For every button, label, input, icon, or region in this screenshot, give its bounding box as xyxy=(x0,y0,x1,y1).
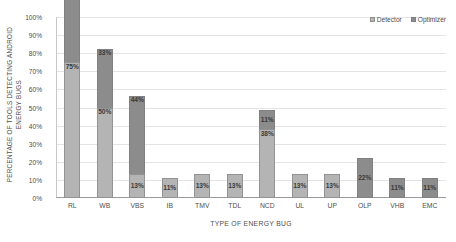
bar-segment-detector[interactable]: 50% xyxy=(97,108,113,199)
legend-swatch-icon xyxy=(370,17,375,22)
bar-value-label: 44% xyxy=(66,0,79,54)
bar-group-olp[interactable]: 22% xyxy=(357,17,373,198)
bar-segment-detector[interactable]: 38% xyxy=(259,129,275,198)
bar-value-label: 13% xyxy=(196,182,209,189)
bar-group-ib[interactable]: 11% xyxy=(162,17,178,198)
bar-stack: 11% xyxy=(389,178,405,198)
bar-group-vbs[interactable]: 44%13% xyxy=(129,17,145,198)
y-axis-tick-label: 30% xyxy=(6,140,42,147)
bar-stack: 44%13% xyxy=(129,96,145,198)
bar-value-label: 13% xyxy=(293,182,306,189)
bar-value-label: 44% xyxy=(131,96,144,166)
legend-label: Optimizer xyxy=(418,16,446,23)
legend-item-optimizer[interactable]: Optimizer xyxy=(411,16,446,23)
y-axis-tick-label: 80% xyxy=(6,50,42,57)
bar-stack: 11% xyxy=(162,178,178,198)
bar-segment-detector[interactable]: 75% xyxy=(64,62,80,198)
bar-segment-optimizer[interactable]: 22% xyxy=(357,158,373,198)
bar-segment-optimizer[interactable]: 44% xyxy=(64,0,80,63)
bar-stack: 33%50% xyxy=(97,49,113,198)
bar-stack: 13% xyxy=(194,174,210,198)
bars-layer: 44%75%33%50%44%13%11%13%13%11%38%13%13%2… xyxy=(56,17,446,198)
bar-value-label: 11% xyxy=(391,184,404,191)
bar-segment-detector[interactable]: 13% xyxy=(292,174,308,198)
bar-segment-optimizer[interactable]: 11% xyxy=(259,110,275,130)
bar-value-label: 11% xyxy=(261,116,274,123)
bar-segment-detector[interactable]: 11% xyxy=(162,178,178,198)
bar-value-label: 11% xyxy=(163,184,176,191)
y-axis-tick-label: 0% xyxy=(6,195,42,202)
bar-value-label: 13% xyxy=(131,182,144,189)
x-axis-tick-label-emc: EMC xyxy=(410,202,450,209)
bar-value-label: 50% xyxy=(98,108,111,189)
y-axis-tick-label: 90% xyxy=(6,32,42,39)
bar-stack: 13% xyxy=(324,174,340,198)
bar-group-ncd[interactable]: 11%38% xyxy=(259,17,275,198)
legend-label: Detector xyxy=(377,16,402,23)
bar-stack: 13% xyxy=(292,174,308,198)
bar-value-label: 33% xyxy=(98,49,111,103)
bar-segment-detector[interactable]: 13% xyxy=(324,174,340,198)
y-axis-tick-label: 70% xyxy=(6,68,42,75)
y-axis-tick-label: 20% xyxy=(6,158,42,165)
bar-stack: 22% xyxy=(357,158,373,198)
y-axis-tick-label: 40% xyxy=(6,122,42,129)
bar-stack: 13% xyxy=(227,174,243,198)
bar-group-up[interactable]: 13% xyxy=(324,17,340,198)
bar-stack: 44%75% xyxy=(64,0,80,198)
bar-value-label: 13% xyxy=(326,182,339,189)
bar-segment-detector[interactable]: 13% xyxy=(194,174,210,198)
energy-bug-bar-chart: PERCENTAGE OF TOOLS DETECTING ANDROID EN… xyxy=(0,0,456,242)
bar-segment-optimizer[interactable]: 11% xyxy=(389,178,405,198)
bar-stack: 11%38% xyxy=(259,110,275,198)
legend-item-detector[interactable]: Detector xyxy=(370,16,402,23)
y-axis-tick-label: 10% xyxy=(6,176,42,183)
bar-value-label: 11% xyxy=(423,184,436,191)
bar-value-label: 75% xyxy=(66,63,79,157)
bar-group-wb[interactable]: 33%50% xyxy=(97,17,113,198)
bar-stack: 11% xyxy=(422,178,438,198)
bar-value-label: 22% xyxy=(358,174,371,181)
bar-group-emc[interactable]: 11% xyxy=(422,17,438,198)
bar-segment-detector[interactable]: 13% xyxy=(129,174,145,198)
bar-segment-detector[interactable]: 13% xyxy=(227,174,243,198)
y-axis-tick-label: 100% xyxy=(6,14,42,21)
y-axis-tick-label: 60% xyxy=(6,86,42,93)
chart-legend: DetectorOptimizer xyxy=(370,16,446,23)
y-axis-tick-label: 50% xyxy=(6,104,42,111)
bar-group-tdl[interactable]: 13% xyxy=(227,17,243,198)
bar-group-tmv[interactable]: 13% xyxy=(194,17,210,198)
bar-group-vhb[interactable]: 11% xyxy=(389,17,405,198)
bar-value-label: 13% xyxy=(228,182,241,189)
legend-swatch-icon xyxy=(411,17,416,22)
bar-segment-optimizer[interactable]: 44% xyxy=(129,96,145,176)
bar-group-ul[interactable]: 13% xyxy=(292,17,308,198)
x-axis-title: TYPE OF ENERGY BUG xyxy=(56,220,446,227)
bar-value-label: 38% xyxy=(261,130,274,193)
bar-segment-optimizer[interactable]: 33% xyxy=(97,49,113,109)
bar-group-rl[interactable]: 44%75% xyxy=(64,17,80,198)
bar-segment-optimizer[interactable]: 11% xyxy=(422,178,438,198)
